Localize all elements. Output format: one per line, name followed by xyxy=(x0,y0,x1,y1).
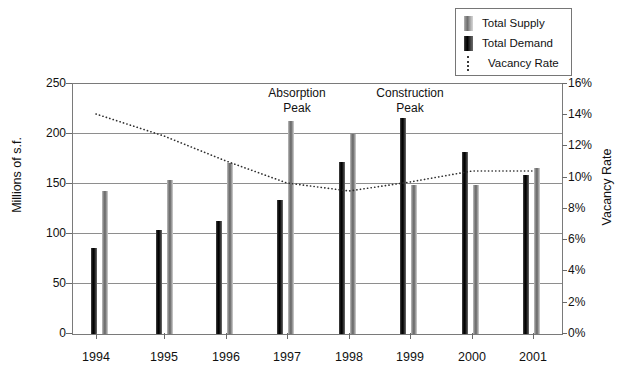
bar-total-supply-1998 xyxy=(350,134,356,334)
annotation-construction-peak: Construction Peak xyxy=(350,86,470,116)
y-axis-right-tickmark-6 xyxy=(562,239,567,240)
gridline-100 xyxy=(73,233,562,234)
x-axis-label-1997: 1997 xyxy=(259,350,315,364)
y-axis-right-tickmark-16 xyxy=(562,83,567,84)
x-axis-label-1998: 1998 xyxy=(321,350,377,364)
y-axis-right-tick-16: 16% xyxy=(568,77,592,89)
y-axis-right-tickmark-2 xyxy=(562,302,567,303)
x-axis-tickmark-1998 xyxy=(349,333,350,339)
y-axis-right-tick-0: 0% xyxy=(568,327,585,339)
x-axis-label-1996: 1996 xyxy=(198,350,254,364)
bar-total-supply-1994 xyxy=(102,191,108,334)
chart-legend: Total Supply Total Demand Vacancy Rate xyxy=(455,8,572,76)
legend-label-total-supply: Total Supply xyxy=(482,17,545,30)
legend-label-vacancy-rate: Vacancy Rate xyxy=(488,57,559,70)
bar-total-supply-2000 xyxy=(473,185,479,334)
bar-total-demand-1994 xyxy=(91,248,97,334)
bar-total-demand-2001 xyxy=(523,175,529,334)
y-axis-right-tickmark-10 xyxy=(562,177,567,178)
y-axis-right-tick-8: 8% xyxy=(568,202,585,214)
y-axis-right-tickmark-12 xyxy=(562,145,567,146)
x-axis-tickmark-2001 xyxy=(533,333,534,339)
x-axis-tickmark-1995 xyxy=(164,333,165,339)
y-axis-left-tick-250: 250 xyxy=(8,77,66,89)
vacancy-rate-dotted-line-icon xyxy=(467,56,476,71)
gridline-50 xyxy=(73,283,562,284)
x-axis-label-1994: 1994 xyxy=(68,350,124,364)
x-axis-label-1995: 1995 xyxy=(136,350,192,364)
bar-total-demand-1997 xyxy=(277,200,283,334)
total-demand-swatch-icon xyxy=(464,36,473,51)
y-axis-left-title: Millions of s.f. xyxy=(10,95,24,255)
x-axis-label-2001: 2001 xyxy=(505,350,561,364)
bar-total-supply-2001 xyxy=(534,168,540,334)
x-axis-tickmark-1997 xyxy=(287,333,288,339)
y-axis-right-tickmark-0 xyxy=(562,333,567,334)
y-axis-right-tick-14: 14% xyxy=(568,108,592,120)
bar-total-demand-2000 xyxy=(462,152,468,334)
total-supply-swatch-icon xyxy=(464,16,473,31)
y-axis-left-tick-0: 0 xyxy=(8,327,66,339)
bar-total-demand-1996 xyxy=(216,221,222,334)
annotation-absorption-peak: Absorption Peak xyxy=(237,86,357,116)
y-axis-right-tick-10: 10% xyxy=(568,171,592,183)
y-axis-right-tickmark-4 xyxy=(562,270,567,271)
chart-root: Total Supply Total Demand Vacancy Rate 2… xyxy=(0,0,638,389)
legend-item-total-demand: Total Demand xyxy=(464,33,565,53)
x-axis-tickmark-1999 xyxy=(410,333,411,339)
y-axis-right-tickmark-14 xyxy=(562,114,567,115)
y-axis-right-tick-4: 4% xyxy=(568,264,585,276)
x-axis-tickmark-2000 xyxy=(472,333,473,339)
bar-total-supply-1996 xyxy=(227,163,233,334)
x-axis-tickmark-1994 xyxy=(96,333,97,339)
plot-area xyxy=(72,83,563,335)
bar-total-supply-1999 xyxy=(411,185,417,334)
bar-total-supply-1995 xyxy=(167,180,173,334)
bar-total-supply-1997 xyxy=(288,121,294,334)
x-axis-label-2000: 2000 xyxy=(444,350,500,364)
x-axis-label-1999: 1999 xyxy=(382,350,438,364)
x-axis-tickmark-1996 xyxy=(226,333,227,339)
legend-item-total-supply: Total Supply xyxy=(464,13,565,33)
y-axis-right-tickmark-8 xyxy=(562,208,567,209)
bar-total-demand-1998 xyxy=(339,162,345,334)
bar-total-demand-1999 xyxy=(400,118,406,334)
legend-item-vacancy-rate: Vacancy Rate xyxy=(464,53,565,73)
y-axis-right-tick-6: 6% xyxy=(568,233,585,245)
gridline-200 xyxy=(73,133,562,134)
legend-label-total-demand: Total Demand xyxy=(482,37,553,50)
gridline-150 xyxy=(73,183,562,184)
y-axis-right-title: Vacancy Rate xyxy=(600,117,614,257)
y-axis-right-tick-2: 2% xyxy=(568,296,585,308)
y-axis-right-tick-12: 12% xyxy=(568,139,592,151)
bar-total-demand-1995 xyxy=(156,230,162,334)
x-axis: 1994 1995 1996 1997 1998 1999 2000 2001 xyxy=(72,333,561,373)
y-axis-left-tick-50: 50 xyxy=(8,277,66,289)
